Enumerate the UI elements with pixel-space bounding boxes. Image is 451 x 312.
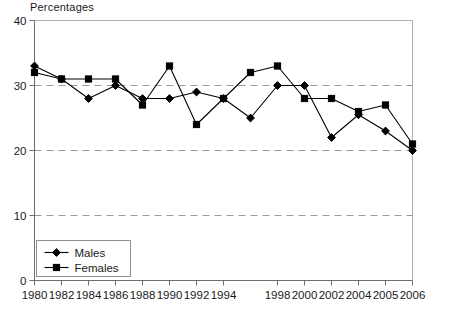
datapoint-males-1980	[31, 62, 39, 70]
datapoint-females-1980	[31, 69, 37, 75]
legend-label-males: Males	[75, 247, 106, 259]
line-chart-plot: 0102030401980198219841986198819901992199…	[0, 0, 451, 312]
x-axis-label-2005: 2005	[373, 289, 399, 301]
y-axis-label-40: 40	[14, 15, 27, 27]
datapoint-females-1984	[85, 76, 91, 82]
x-axis-label-1980: 1980	[22, 289, 48, 301]
datapoint-males-1992	[193, 88, 201, 96]
y-axis: 010203040	[14, 15, 35, 287]
datapoint-females-2000	[301, 95, 307, 101]
x-axis-label-2006: 2006	[400, 289, 426, 301]
x-axis-label-1982: 1982	[49, 289, 75, 301]
datapoint-females-1990	[166, 63, 172, 69]
series-females	[31, 63, 415, 147]
x-axis-label-1994: 1994	[211, 289, 237, 301]
x-axis-label-1988: 1988	[130, 289, 156, 301]
datapoint-females-2006	[409, 141, 415, 147]
datapoint-females-1994	[220, 95, 226, 101]
datapoint-males-2000	[301, 82, 309, 90]
datapoint-males-1984	[85, 95, 93, 103]
y-axis-label-10: 10	[14, 210, 27, 222]
legend-marker-females	[53, 264, 59, 270]
x-axis-label-1990: 1990	[157, 289, 183, 301]
datapoint-females-2005	[382, 102, 388, 108]
datapoint-females-1996	[247, 69, 253, 75]
x-axis-label-2004: 2004	[346, 289, 372, 301]
legend: MalesFemales	[37, 241, 131, 277]
datapoint-females-1986	[112, 76, 118, 82]
datapoint-males-1986	[112, 82, 120, 90]
datapoint-females-1988	[139, 102, 145, 108]
datapoint-males-2005	[382, 127, 390, 135]
x-axis-label-1984: 1984	[76, 289, 102, 301]
gridlines	[35, 86, 413, 216]
datapoint-females-1992	[193, 121, 199, 127]
datapoint-females-2002	[328, 95, 334, 101]
y-axis-label-0: 0	[20, 275, 26, 287]
x-axis-label-2002: 2002	[319, 289, 345, 301]
x-axis: 1980198219841986198819901992199419982000…	[22, 281, 426, 301]
x-axis-label-1998: 1998	[265, 289, 291, 301]
datapoint-females-1998	[274, 63, 280, 69]
datapoint-females-1982	[58, 76, 64, 82]
chart-container: Percentages 0102030401980198219841986198…	[0, 0, 451, 312]
datapoint-females-2004	[355, 108, 361, 114]
y-axis-label-20: 20	[14, 145, 27, 157]
x-axis-label-1986: 1986	[103, 289, 129, 301]
x-axis-label-2000: 2000	[292, 289, 318, 301]
x-axis-label-1992: 1992	[184, 289, 210, 301]
y-axis-label-30: 30	[14, 80, 27, 92]
datapoint-males-1990	[166, 95, 174, 103]
datapoint-males-2006	[409, 147, 417, 155]
legend-label-females: Females	[75, 262, 119, 274]
